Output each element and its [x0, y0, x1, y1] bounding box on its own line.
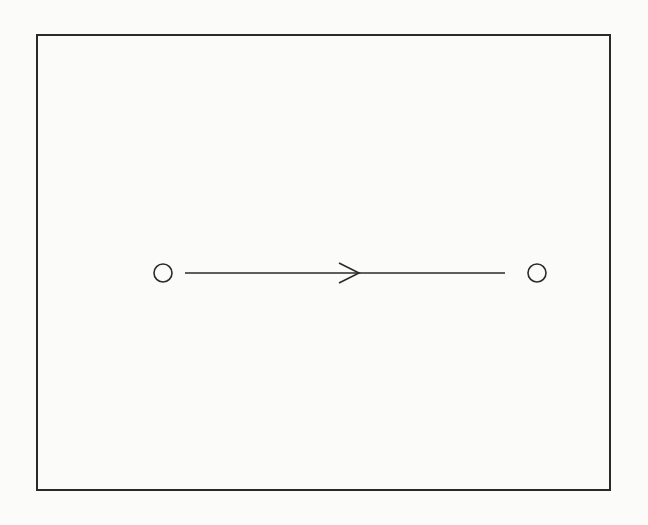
- state-node-start: [154, 264, 172, 282]
- diagram-canvas: [0, 0, 648, 525]
- diagram-frame: [37, 35, 610, 490]
- state-node-end: [528, 264, 546, 282]
